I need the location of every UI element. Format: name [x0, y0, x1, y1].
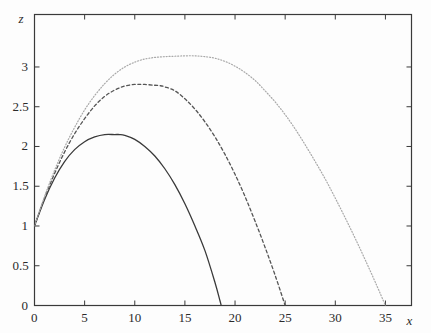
x-axis-label: x — [407, 314, 413, 327]
curve-solid — [35, 134, 222, 305]
y-tick-label: 0.5 — [13, 259, 29, 272]
x-tick-label: 10 — [128, 311, 141, 324]
x-tick-label: 20 — [229, 311, 242, 324]
x-tick-label: 25 — [279, 311, 292, 324]
y-tick-label: 2.5 — [13, 100, 29, 113]
y-tick-label: 3 — [22, 60, 29, 73]
y-tick-label: 2 — [22, 139, 29, 152]
y-tick-label: 1 — [22, 219, 29, 232]
plot-canvas — [0, 0, 431, 333]
x-tick-label: 5 — [81, 311, 88, 324]
x-tick-label: 30 — [329, 311, 342, 324]
x-tick-label: 15 — [178, 311, 191, 324]
y-axis-label: z — [19, 12, 24, 25]
x-tick-label: 0 — [31, 311, 38, 324]
curve-dashed — [35, 84, 286, 305]
chart-figure: z x 0510152025303500.511.522.53 — [0, 0, 431, 333]
plot-frame — [35, 15, 412, 306]
y-tick-label: 0 — [22, 299, 29, 312]
x-tick-label: 35 — [379, 311, 392, 324]
y-tick-label: 1.5 — [13, 179, 29, 192]
